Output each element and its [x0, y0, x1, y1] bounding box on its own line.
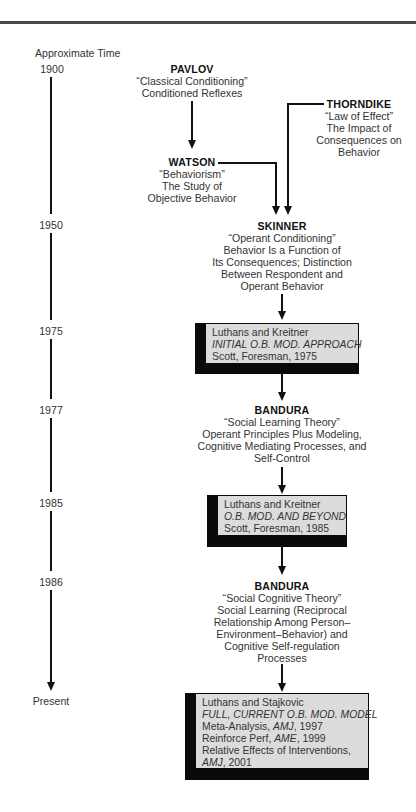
- top-rule: [0, 21, 416, 24]
- tick-1900: 1900: [40, 63, 64, 75]
- node-line: “Operant Conditioning”: [212, 232, 352, 244]
- axis-segment: [50, 233, 52, 320]
- box-present: Luthans and Stajkovic FULL, CURRENT O.B.…: [185, 693, 369, 780]
- arrowhead-icon: [278, 566, 286, 575]
- tick-1986: 1986: [39, 576, 63, 588]
- box-ref: AMJ, 2001: [202, 757, 368, 769]
- node-line: Cognitive Mediating Processes, and: [197, 440, 366, 452]
- box-publisher: Scott, Foresman, 1985: [224, 523, 346, 535]
- ref-text: Reinforce Perf,: [202, 733, 274, 744]
- ref-year: , 1999: [297, 733, 326, 744]
- ref-text: Meta-Analysis,: [202, 721, 273, 732]
- arrow-skinner-box1975: [281, 294, 283, 312]
- arrow-bandura-box2001: [281, 664, 283, 684]
- node-bandura-1986: BANDURA “Social Cognitive Theory” Social…: [214, 580, 351, 664]
- arrowhead-icon: [278, 311, 286, 320]
- timeline-header: Approximate Time: [35, 47, 120, 59]
- axis-segment: [50, 672, 52, 684]
- box-face: Luthans and Kreitner O.B. MOD. AND BEYON…: [218, 496, 346, 535]
- arrowhead-icon: [278, 683, 286, 692]
- node-line: “Behaviorism”: [148, 168, 237, 180]
- node-line: Behavior Is a Function of: [212, 244, 352, 256]
- node-line: “Law of Effect”: [316, 110, 401, 122]
- ref-journal: AMJ: [202, 757, 223, 768]
- node-line: Social Learning (Reciprocal: [214, 604, 351, 616]
- node-line: Consequences on: [316, 134, 401, 146]
- ref-year: , 2001: [223, 757, 252, 768]
- tick-1975: 1975: [39, 325, 63, 337]
- arrow-box1985-bandura: [281, 547, 283, 567]
- box-1975: Luthans and Kreitner INITIAL O.B. MOD. A…: [195, 323, 359, 374]
- node-line: The Study of: [148, 180, 237, 192]
- connector-watson-h: [218, 162, 277, 164]
- arrowhead-icon: [278, 392, 286, 401]
- connector-thorndike-v: [287, 103, 289, 207]
- ref-journal: AME: [274, 733, 297, 744]
- node-line: Its Consequences; Distinction: [212, 256, 352, 268]
- node-title: PAVLOV: [136, 63, 247, 75]
- node-skinner: SKINNER “Operant Conditioning” Behavior …: [212, 220, 352, 292]
- box-title: FULL, CURRENT O.B. MOD. MODEL: [202, 709, 368, 721]
- box-publisher: Scott, Foresman, 1975: [212, 351, 358, 363]
- node-bandura-1977: BANDURA “Social Learning Theory” Operant…: [197, 404, 366, 464]
- box-ref: Meta-Analysis, AMJ, 1997: [202, 721, 368, 733]
- node-line: Operant Behavior: [212, 280, 352, 292]
- node-line: The Impact of: [316, 122, 401, 134]
- ref-text: Relative Effects of Interventions,: [202, 745, 351, 756]
- ref-journal: AMJ: [273, 721, 294, 732]
- node-line: Self-Control: [197, 452, 366, 464]
- node-line: Between Respondent and: [212, 268, 352, 280]
- node-line: Cognitive Self-regulation: [214, 640, 351, 652]
- arrow-bandura-box1985: [281, 467, 283, 486]
- node-line: “Social Cognitive Theory”: [214, 592, 351, 604]
- node-line: Behavior: [316, 146, 401, 158]
- box-face: Luthans and Stajkovic FULL, CURRENT O.B.…: [196, 694, 368, 768]
- axis-segment: [50, 339, 52, 399]
- node-line: Processes: [214, 652, 351, 664]
- box-1985: Luthans and Kreitner O.B. MOD. AND BEYON…: [207, 495, 347, 547]
- axis-segment: [50, 590, 52, 674]
- box-ref: Relative Effects of Interventions,: [202, 745, 368, 757]
- node-line: Relationship Among Person–: [214, 616, 351, 628]
- arrowhead-icon: [272, 206, 280, 215]
- node-line: “Social Learning Theory”: [197, 416, 366, 428]
- axis-segment: [50, 418, 52, 492]
- node-line: Environment–Behavior) and: [214, 628, 351, 640]
- arrowhead-icon: [278, 485, 286, 494]
- axis-segment: [50, 77, 52, 214]
- node-title: SKINNER: [212, 220, 352, 232]
- connector-thorndike-h: [287, 103, 324, 105]
- arrowhead-icon: [284, 206, 292, 215]
- box-title: O.B. MOD. AND BEYOND: [224, 511, 346, 523]
- tick-1985: 1985: [39, 497, 63, 509]
- box-authors: Luthans and Stajkovic: [202, 697, 368, 709]
- node-pavlov: PAVLOV “Classical Conditioning” Conditio…: [136, 63, 247, 99]
- box-authors: Luthans and Kreitner: [212, 327, 358, 339]
- box-face: Luthans and Kreitner INITIAL O.B. MOD. A…: [206, 324, 358, 363]
- node-thorndike: THORNDIKE “Law of Effect” The Impact of …: [316, 98, 401, 158]
- node-line: Operant Principles Plus Modeling,: [197, 428, 366, 440]
- node-title: THORNDIKE: [316, 98, 401, 110]
- tick-1950: 1950: [39, 219, 63, 231]
- ref-year: , 1997: [294, 721, 323, 732]
- box-title: INITIAL O.B. MOD. APPROACH: [212, 339, 358, 351]
- tick-1977: 1977: [39, 404, 63, 416]
- arrowhead-icon: [188, 140, 196, 149]
- box-authors: Luthans and Kreitner: [224, 499, 346, 511]
- arrow-pavlov-watson: [191, 101, 193, 141]
- node-line: “Classical Conditioning”: [136, 75, 247, 87]
- arrow-box1975-bandura: [281, 374, 283, 393]
- box-ref: Reinforce Perf, AME, 1999: [202, 733, 368, 745]
- node-line: Objective Behavior: [148, 192, 237, 204]
- connector-watson-v: [275, 162, 277, 207]
- node-line: Conditioned Reflexes: [136, 87, 247, 99]
- axis-segment: [50, 511, 52, 571]
- tick-present: Present: [33, 695, 70, 707]
- node-title: BANDURA: [197, 404, 366, 416]
- node-title: BANDURA: [214, 580, 351, 592]
